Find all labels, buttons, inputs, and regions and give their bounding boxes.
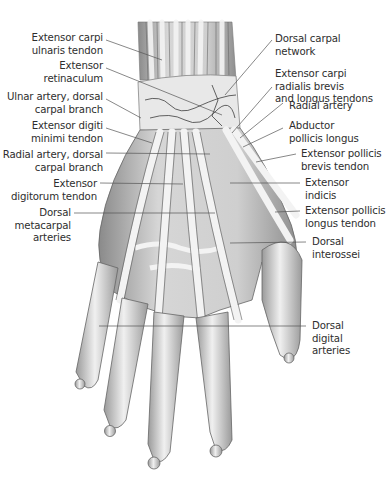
thumb — [262, 242, 302, 360]
label-dorsal-interossei: Dorsal interossei — [312, 236, 360, 261]
label-extensor-pollicis-brevis-tendon: Extensor pollicis brevis tendon — [301, 148, 382, 173]
label-ulnar-artery-dorsal-carpal-branch: Ulnar artery, dorsal carpal branch — [7, 91, 103, 116]
label-dorsal-digital-arteries: Dorsal digital arteries — [312, 320, 350, 358]
label-extensor-pollicis-longus-tendon: Extensor pollicis longus tendon — [305, 205, 386, 230]
label-radial-artery-dorsal-carpal-branch: Radial artery, dorsal carpal branch — [3, 149, 103, 174]
label-extensor-digitorum-tendon: Extensor digitorum tendon — [11, 178, 97, 203]
label-radial-artery: Radial artery — [289, 100, 353, 113]
label-dorsal-metacarpal-arteries: Dorsal metacarpal arteries — [14, 207, 71, 245]
leader-radial-artery — [240, 103, 283, 138]
forearm — [138, 22, 236, 80]
extensor-retinaculum — [138, 75, 240, 133]
ring-finger — [104, 298, 148, 428]
leader-ulnar-artery — [106, 99, 141, 118]
label-extensor-digiti-minimi-tendon: Extensor digiti minimi tendon — [31, 120, 103, 145]
label-dorsal-carpal-network: Dorsal carpal network — [275, 33, 341, 58]
label-extensor-retinaculum: Extensor retinaculum — [44, 60, 103, 85]
leader-epb — [256, 154, 296, 162]
label-extensor-carpi-ulnaris-tendon: Extensor carpi ulnaris tendon — [32, 32, 103, 57]
index-finger — [196, 312, 232, 451]
label-abductor-pollicis-longus: Abductor pollicis longus — [289, 120, 359, 145]
label-extensor-indicis: Extensor indicis — [305, 177, 349, 202]
middle-finger — [148, 312, 184, 462]
